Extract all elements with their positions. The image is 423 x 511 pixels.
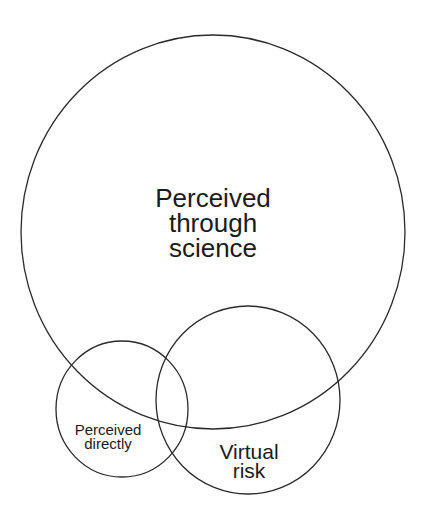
label-line: risk [233, 459, 266, 482]
label-line: science [169, 233, 257, 263]
label-perceived-directly: Perceived directly [75, 421, 142, 452]
label-line: directly [84, 435, 132, 452]
label-virtual-risk: Virtual risk [219, 440, 278, 482]
label-perceived-through-science: Perceived through science [155, 183, 271, 263]
venn-diagram: Perceived through science Perceived dire… [0, 0, 423, 511]
circle-perceived-directly [56, 341, 188, 477]
